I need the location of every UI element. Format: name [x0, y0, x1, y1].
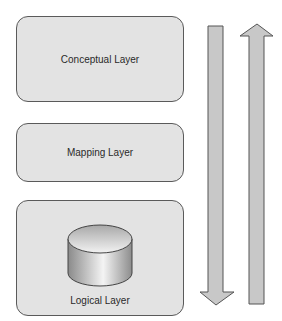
- arrows-layer: [0, 0, 282, 321]
- up-arrow-icon: [240, 24, 273, 304]
- down-arrow-icon: [200, 26, 234, 305]
